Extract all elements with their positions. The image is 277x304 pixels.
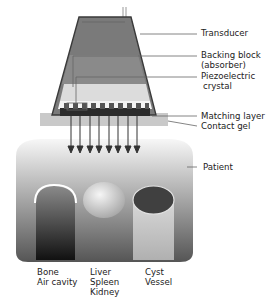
label-matching-layer: Matching layer <box>201 111 265 121</box>
tissue-line: Liver <box>90 267 119 277</box>
matching-layer <box>60 108 150 116</box>
label-piezoelectric: Piezoelectric <box>201 71 255 81</box>
label-tissue-bone: Bone Air cavity <box>37 267 77 287</box>
label-transducer: Transducer <box>201 28 248 38</box>
tissue-line: Cyst <box>145 267 172 277</box>
ultrasound-transducer-diagram <box>0 0 277 304</box>
label-contact-gel: Contact gel <box>201 121 250 131</box>
label-backing-block-absorber: (absorber) <box>201 60 246 70</box>
label-patient: Patient <box>203 162 233 172</box>
organ-liver-spleen-kidney <box>83 182 125 218</box>
tissue-line: Kidney <box>90 287 119 297</box>
label-tissue-organ: Liver Spleen Kidney <box>90 267 119 297</box>
tissue-line: Spleen <box>90 277 119 287</box>
bone-air-cavity <box>36 186 75 260</box>
tissue-line: Air cavity <box>37 277 77 287</box>
tissue-line: Vessel <box>145 277 172 287</box>
tissue-line: Bone <box>37 267 77 277</box>
label-crystal: crystal <box>203 81 232 91</box>
label-tissue-cyst: Cyst Vessel <box>145 267 172 287</box>
label-backing-block: Backing block <box>201 50 261 60</box>
